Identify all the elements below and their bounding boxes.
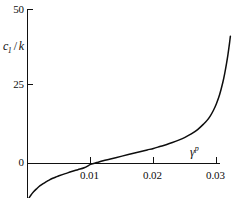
x-tick-label-003: 0.03 (206, 170, 225, 181)
chart-figure: 50 25 0 0.01 0.02 0.03 c1/k γp (0, 0, 234, 198)
x-tick-label-001: 0.01 (80, 170, 99, 181)
x-axis-title: γp (190, 145, 199, 158)
y-axis-title-slash: / (14, 39, 17, 53)
y-axis-title-denominator: k (19, 39, 24, 53)
plot-canvas (0, 0, 234, 198)
x-tick-label-002: 0.02 (143, 170, 162, 181)
y-tick-label-25: 25 (6, 79, 24, 90)
x-axis-title-superscript: p (195, 144, 199, 153)
y-axis-title: c1/k (3, 40, 24, 55)
data-curve (28, 36, 231, 198)
y-tick-label-0: 0 (6, 157, 24, 168)
y-tick-label-50: 50 (6, 4, 24, 15)
y-axis-title-subscript: 1 (8, 46, 12, 55)
